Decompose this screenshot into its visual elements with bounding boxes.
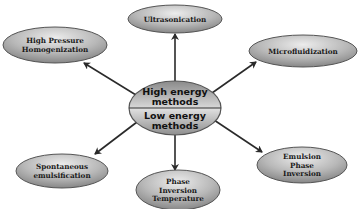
edge-to-microfluidization: [212, 62, 256, 93]
node-label-line: Homogenization: [22, 45, 89, 54]
center-node: High energy methods Low energy methods: [129, 81, 221, 135]
node-microfluidization: Microfluidization: [249, 35, 357, 67]
high-energy-label-line2: methods: [152, 96, 199, 107]
edge-to-emulsion-phase-inversion: [214, 120, 262, 152]
node-emulsion-phase-inversion: EmulsionPhaseInversion: [257, 147, 347, 183]
edge-to-high-pressure-homogenization: [84, 63, 136, 95]
node-label-line: Inversion: [283, 169, 322, 178]
node-high-pressure-homogenization: High PressureHomogenization: [3, 27, 107, 63]
node-label-line: Ultrasonication: [144, 15, 207, 24]
node-phase-inversion-temperature: PhaseInversionTemperature: [136, 170, 220, 209]
node-label-line: emulsification: [33, 171, 91, 180]
node-label-line: Microfluidization: [268, 47, 338, 56]
node-label-line: Temperature: [152, 194, 204, 203]
low-energy-label-line2: methods: [152, 120, 199, 131]
energy-methods-diagram: UltrasonicationHigh PressureHomogenizati…: [0, 0, 358, 209]
edge-to-spontaneous-emulsification: [95, 122, 137, 154]
node-spontaneous-emulsification: Spontaneousemulsification: [16, 154, 108, 188]
node-ultrasonication: Ultrasonication: [128, 5, 222, 33]
